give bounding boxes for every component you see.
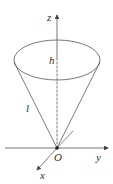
cone-left-edge bbox=[14, 62, 57, 148]
slant-label: l bbox=[26, 103, 29, 114]
x-axis-back bbox=[57, 131, 73, 148]
height-label: h bbox=[49, 55, 55, 66]
cone-right-edge bbox=[57, 62, 100, 148]
x-axis-label: x bbox=[40, 170, 45, 181]
y-axis-label: y bbox=[96, 152, 101, 163]
origin-label: O bbox=[54, 152, 62, 163]
origin-point bbox=[55, 146, 59, 150]
cone-diagram: z h l O y x bbox=[0, 0, 113, 184]
z-axis-label: z bbox=[47, 12, 51, 23]
